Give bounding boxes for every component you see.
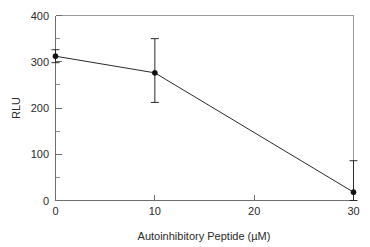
data-point [351, 190, 356, 195]
x-tick-label-10: 10 [149, 205, 161, 217]
x-tick-label-0: 0 [52, 205, 58, 217]
x-axis-title: Autoinhibitory Peptide (µM) [138, 230, 271, 242]
y-tick-label-400: 400 [31, 10, 49, 22]
y-tick-label-100: 100 [31, 148, 49, 160]
x-tick-label-30: 30 [347, 205, 359, 217]
data-point [53, 54, 58, 59]
line-chart-svg: 0 100 200 300 400 0 10 20 30 Autoinhibit… [0, 0, 370, 247]
x-tick-label-20: 20 [248, 205, 260, 217]
data-point [152, 70, 157, 75]
y-tick-label-200: 200 [31, 102, 49, 114]
chart-figure: 0 100 200 300 400 0 10 20 30 Autoinhibit… [0, 0, 370, 247]
y-tick-label-0: 0 [43, 195, 49, 207]
y-tick-label-300: 300 [31, 56, 49, 68]
y-axis-title: RLU [10, 97, 22, 119]
